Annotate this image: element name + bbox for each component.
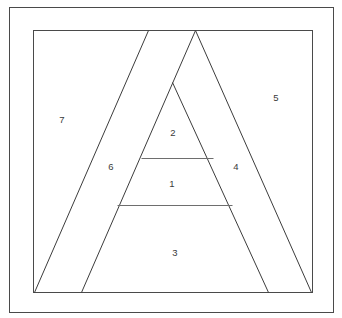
region-6-label: 6 (108, 161, 113, 172)
region-7-label: 7 (59, 114, 64, 125)
region-1-label: 1 (169, 178, 174, 189)
geometry-figure: 1234567 (0, 0, 342, 318)
outer-left-band-edge (35, 31, 149, 293)
triangle-left-side (82, 31, 196, 293)
region-5-label: 5 (273, 92, 278, 103)
region-2-label: 2 (170, 127, 175, 138)
inner-triangle-right (173, 83, 269, 293)
region-label-group: 1234567 (59, 92, 278, 258)
outer-border (10, 8, 334, 313)
diagram-canvas: 1234567 (0, 0, 342, 318)
triangle-right-side (196, 31, 312, 293)
region-4-label: 4 (233, 161, 238, 172)
frame-group (10, 8, 334, 313)
region-3-label: 3 (172, 247, 177, 258)
